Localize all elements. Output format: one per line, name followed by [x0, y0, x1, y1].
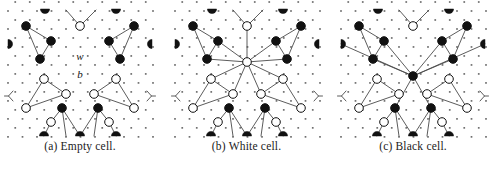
node-white — [438, 118, 447, 127]
node-white — [423, 90, 432, 99]
node-white — [242, 22, 251, 31]
node-white — [380, 118, 389, 127]
node-white — [213, 118, 222, 127]
lattice-edge — [449, 79, 467, 108]
node-black — [202, 55, 211, 64]
lattice-edge — [287, 26, 301, 59]
node-white — [76, 22, 85, 31]
panel-c-canvas — [333, 0, 493, 140]
boundary-half-disc-icon — [207, 9, 216, 14]
boundary-half-disc-icon — [206, 131, 215, 136]
node-black — [369, 55, 378, 64]
panel-b-diagram — [167, 0, 327, 140]
boundary-half-disc-icon — [242, 131, 251, 136]
node-black — [271, 37, 280, 46]
node-black — [282, 55, 291, 64]
lattice-edge — [193, 79, 211, 108]
node-white — [206, 75, 215, 84]
lattice-edge — [453, 26, 467, 59]
boundary-fork-icon — [314, 91, 323, 101]
boundary-half-disc-icon — [8, 39, 13, 48]
boundary-fork-icon — [338, 91, 347, 101]
boundary-half-disc-icon — [147, 39, 152, 48]
lattice-edge — [207, 59, 247, 62]
lattice-edge — [283, 79, 301, 108]
node-white — [373, 75, 382, 84]
lattice-edge — [26, 79, 44, 108]
boundary-fork-group — [338, 91, 489, 101]
panel-a-canvas: wb — [0, 0, 160, 140]
node-black — [409, 72, 418, 81]
node-black — [188, 22, 197, 31]
boundary-fork-group — [5, 91, 156, 101]
node-white — [62, 90, 71, 99]
boundary-half-disc-icon — [444, 9, 453, 14]
boundary-half-disc-icon — [444, 131, 453, 136]
lattice-edge — [413, 108, 431, 136]
panel-c-caption-text: Black cell. — [396, 140, 447, 152]
node-white — [278, 75, 287, 84]
boundary-half-disc-icon — [40, 9, 49, 14]
node-white — [409, 22, 418, 31]
node-white — [90, 90, 99, 99]
node-label-b: b — [77, 68, 83, 80]
panel-c-diagram — [333, 0, 493, 140]
lattice-edge — [247, 59, 287, 62]
node-label-w: w — [76, 50, 84, 62]
panel-a-caption: (a)Empty cell. — [0, 140, 160, 152]
panel-b: (b)White cell. — [167, 0, 327, 171]
boundary-half-disc-icon — [278, 9, 287, 14]
lattice-edge — [395, 108, 413, 136]
node-black — [213, 37, 222, 46]
panel-c: (c)Black cell. — [333, 0, 493, 171]
node-black — [427, 104, 436, 113]
node-black — [380, 37, 389, 46]
lattice-edge — [80, 108, 98, 136]
lattice-edge — [247, 41, 276, 62]
boundary-fork-group — [171, 91, 322, 101]
node-white — [355, 104, 364, 113]
node-black — [47, 37, 56, 46]
node-black — [391, 104, 400, 113]
panel-b-canvas — [167, 0, 327, 140]
lattice-edge — [233, 62, 247, 94]
panel-b-caption-tag: (b) — [212, 140, 226, 152]
node-black — [296, 22, 305, 31]
node-white — [463, 104, 472, 113]
lattice-edge — [247, 108, 265, 136]
node-black — [260, 104, 269, 113]
boundary-half-disc-icon — [373, 9, 382, 14]
panel-a: wb(a)Empty cell. — [0, 0, 160, 171]
panel-a-caption-text: Empty cell. — [61, 140, 116, 152]
boundary-fork-icon — [480, 91, 489, 101]
node-white — [395, 90, 404, 99]
node-group — [355, 22, 472, 127]
boundary-fork-icon — [5, 91, 14, 101]
node-white — [242, 58, 251, 67]
lattice-edge — [193, 26, 207, 59]
lattice-edge — [247, 62, 283, 79]
panel-c-caption-tag: (c) — [379, 140, 392, 152]
node-black — [105, 37, 114, 46]
lattice-edge — [62, 108, 80, 136]
node-white — [228, 90, 237, 99]
boundary-half-disc-icon — [341, 39, 346, 48]
boundary-half-disc-icon — [480, 39, 485, 48]
node-white — [271, 118, 280, 127]
node-black — [130, 22, 139, 31]
boundary-half-disc-icon — [111, 9, 120, 14]
panel-b-caption-text: White cell. — [229, 140, 282, 152]
lattice-edge — [229, 108, 247, 136]
boundary-fork-icon — [147, 91, 156, 101]
boundary-half-disc-icon — [75, 131, 84, 136]
boundary-half-disc-icon — [372, 131, 381, 136]
lattice-edge — [26, 26, 40, 59]
node-black — [58, 104, 67, 113]
lattice-edge — [247, 62, 261, 94]
node-white — [47, 118, 56, 127]
node-white — [22, 104, 31, 113]
lattice-cell-states-figure: wb(a)Empty cell.(b)White cell.(c)Black c… — [0, 0, 493, 171]
panel-b-caption: (b)White cell. — [167, 140, 327, 152]
node-white — [256, 90, 265, 99]
node-black — [463, 22, 472, 31]
